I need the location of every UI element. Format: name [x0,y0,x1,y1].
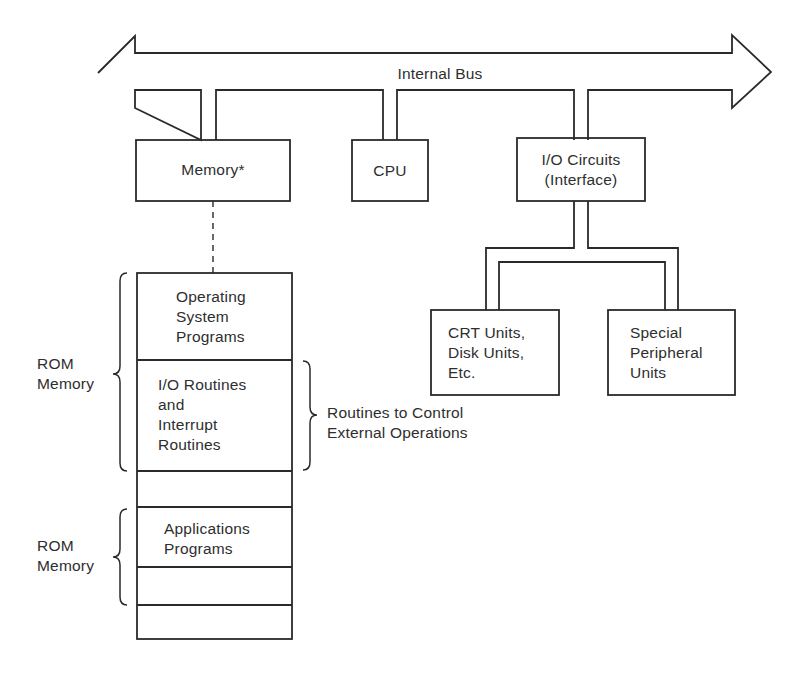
right-brace-routines [303,361,317,470]
rom-memory-label-1-line2: Memory [37,374,94,394]
crt-label-line1: CRT Units, [448,323,525,343]
left-brace-rom-2 [113,509,127,605]
io-circuits-label: I/O Circuits [517,150,645,170]
memory-label: Memory* [136,160,290,180]
special-label-line2: Peripheral [630,343,703,363]
segment-io-line3: Interrupt [158,415,218,435]
special-label-line1: Special [630,323,682,343]
segment-io-line4: Routines [158,435,221,455]
special-label-line3: Units [630,363,666,383]
routines-control-label-line2: External Operations [327,423,468,443]
routines-control-label-line1: Routines to Control [327,403,463,423]
segment-apps-line2: Programs [164,539,233,559]
segment-os-line2: System [176,307,229,327]
segment-io-line1: I/O Routines [158,375,247,395]
rom-memory-label-1-line1: ROM [37,354,74,374]
io-peripheral-connector [486,201,678,310]
internal-bus-arrow [98,35,771,140]
segment-os-line1: Operating [176,287,246,307]
rom-memory-label-2-line2: Memory [37,556,94,576]
diagram-lines [0,0,809,676]
left-brace-rom-1 [113,273,127,471]
internal-bus-label: Internal Bus [380,64,500,84]
cpu-label: CPU [352,161,428,181]
segment-io-line2: and [158,395,184,415]
rom-memory-label-2-line1: ROM [37,536,74,556]
crt-label-line2: Disk Units, [448,343,524,363]
crt-label-line3: Etc. [448,363,476,383]
io-interface-label: (Interface) [517,170,645,190]
segment-os-line3: Programs [176,327,245,347]
segment-apps-line1: Applications [164,519,250,539]
